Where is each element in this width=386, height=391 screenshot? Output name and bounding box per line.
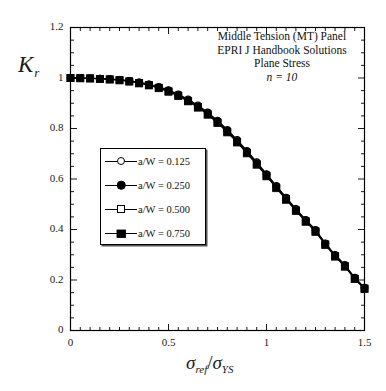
legend-item[interactable]: a/W = 0.500	[101, 197, 205, 221]
x-axis-title-numerator-sub: ref	[195, 363, 207, 375]
legend-marker-square-filled-icon	[104, 225, 138, 243]
data-point-marker	[302, 218, 309, 225]
data-point-marker	[273, 184, 280, 191]
y-tick-label: 1.2	[31, 20, 64, 32]
y-tick-label: 0.4	[31, 222, 64, 234]
data-point-marker	[87, 75, 94, 82]
x-tick-label: 0.5	[155, 336, 183, 348]
x-tick-label: 1	[253, 336, 281, 348]
chart-annotation: Middle Tension (MT) Panel EPRI J Handboo…	[196, 30, 368, 84]
x-axis-title-denominator-sub: YS	[222, 363, 234, 375]
x-tick-label: 0	[57, 336, 85, 348]
annotation-line-1: Middle Tension (MT) Panel	[196, 30, 368, 44]
x-axis-title-numerator: σ	[186, 352, 195, 373]
legend-marker-circle-filled-icon	[104, 176, 138, 194]
data-point-marker	[96, 75, 103, 82]
data-point-marker	[322, 241, 329, 248]
data-point-marker	[185, 98, 192, 105]
data-point-marker	[224, 129, 231, 136]
data-point-marker	[361, 285, 368, 292]
annotation-line-2: EPRI J Handbook Solutions	[196, 44, 368, 58]
chart-legend: a/W = 0.125 a/W = 0.250 a/W = 0.500 a/W …	[100, 148, 206, 245]
data-point-marker	[312, 228, 319, 235]
data-point-marker	[106, 76, 113, 83]
data-point-marker	[234, 139, 241, 146]
data-point-marker	[136, 80, 143, 87]
data-point-marker	[194, 104, 201, 111]
legend-item[interactable]: a/W = 0.750	[101, 222, 205, 246]
data-point-marker	[77, 75, 84, 82]
data-point-marker	[263, 173, 270, 180]
y-tick-label: 1	[31, 71, 64, 83]
data-point-marker	[351, 275, 358, 282]
data-point-marker	[67, 74, 74, 81]
legend-item-label: a/W = 0.500	[138, 204, 190, 215]
legend-marker-square-open-icon	[104, 200, 138, 218]
x-axis-title-denominator: σ	[212, 352, 221, 373]
data-point-marker	[175, 92, 182, 99]
legend-item[interactable]: a/W = 0.125	[101, 149, 205, 173]
x-tick-label: 1.5	[351, 336, 379, 348]
data-point-marker	[332, 253, 339, 260]
annotation-line-4: n = 10	[196, 71, 368, 85]
data-point-marker	[341, 263, 348, 270]
y-tick-label: 0.6	[31, 172, 64, 184]
y-tick-label: 0.8	[31, 121, 64, 133]
data-point-marker	[116, 77, 123, 84]
data-point-marker	[253, 161, 260, 168]
data-point-marker	[243, 150, 250, 157]
data-point-marker	[165, 88, 172, 95]
data-point-marker	[292, 207, 299, 214]
annotation-line-3: Plane Stress	[196, 57, 368, 71]
data-point-marker	[204, 111, 211, 118]
y-tick-label: 0	[31, 323, 64, 335]
data-point-marker	[145, 82, 152, 89]
data-point-marker	[283, 196, 290, 203]
data-point-marker	[155, 85, 162, 92]
data-point-marker	[214, 119, 221, 126]
y-tick-label: 0.2	[31, 273, 64, 285]
legend-item-label: a/W = 0.750	[138, 228, 190, 239]
legend-item-label: a/W = 0.250	[138, 180, 190, 191]
data-point-marker	[126, 78, 133, 85]
legend-marker-circle-open-icon	[104, 152, 138, 170]
chart-figure: Kr σref/σYS Middle Tension (MT) Panel EP…	[0, 0, 386, 391]
legend-item[interactable]: a/W = 0.250	[101, 173, 205, 197]
x-axis-title: σref/σYS	[186, 352, 233, 375]
legend-item-label: a/W = 0.125	[138, 156, 190, 167]
